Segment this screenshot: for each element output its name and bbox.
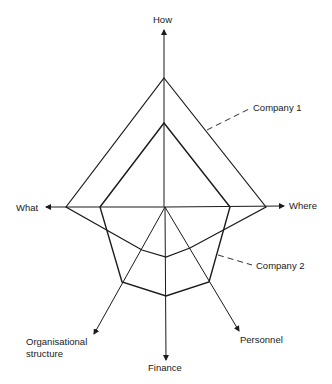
axis-personnel: [165, 207, 239, 331]
axis-label-organisational-structure: Organisational structure: [26, 336, 87, 360]
axis-label-finance: Finance: [148, 362, 182, 374]
radar-diagram: [0, 0, 332, 384]
axis-label-personnel: Personnel: [240, 334, 283, 346]
company-1-profile: [66, 78, 266, 257]
axis-finance: [165, 207, 166, 360]
axis-label-how: How: [153, 14, 172, 26]
axis-label-organisational-line2: structure: [26, 348, 87, 360]
company-1-leader-line: [207, 108, 251, 130]
axis-organisational-structure: [94, 207, 165, 334]
axis-label-where: Where: [289, 200, 317, 212]
company-2-leader-line: [218, 255, 252, 265]
axis-label-what: What: [16, 202, 38, 214]
series-label-company-2: Company 2: [256, 260, 305, 272]
axis-label-organisational-line1: Organisational: [26, 336, 87, 348]
series-label-company-1: Company 1: [253, 102, 302, 114]
